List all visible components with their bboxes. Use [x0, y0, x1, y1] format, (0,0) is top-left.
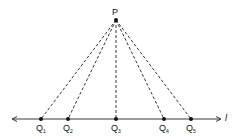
segment-p-q2: [68, 20, 116, 119]
point-q4-label: Q4: [159, 124, 169, 134]
point-q1-label: Q1: [36, 124, 46, 134]
q-letter: Q: [36, 123, 43, 133]
segment-p-q5: [116, 20, 191, 119]
q-letter: Q: [159, 123, 166, 133]
point-q1-dot: [39, 117, 43, 121]
point-q4-dot: [162, 117, 166, 121]
q-subscript: 2: [70, 128, 73, 134]
q-subscript: 1: [43, 128, 46, 134]
point-q3-label: Q3: [111, 124, 121, 134]
point-q2-dot: [66, 117, 70, 121]
point-p-label: P: [112, 8, 118, 17]
point-q5-label: Q5: [186, 124, 196, 134]
q-letter: Q: [186, 123, 193, 133]
dashed-segments: [41, 20, 191, 119]
point-q2-label: Q2: [63, 124, 73, 134]
segment-p-q1: [41, 20, 116, 119]
point-q5-dot: [189, 117, 193, 121]
q-subscript: 5: [193, 128, 196, 134]
segment-p-q4: [116, 20, 164, 119]
point-p-dot: [114, 18, 118, 22]
point-q3-dot: [114, 117, 118, 121]
line-l-label: l: [225, 114, 227, 123]
q-subscript: 4: [166, 128, 169, 134]
q-letter: Q: [111, 123, 118, 133]
q-letter: Q: [63, 123, 70, 133]
q-subscript: 3: [118, 128, 121, 134]
geometry-diagram: [0, 0, 234, 139]
